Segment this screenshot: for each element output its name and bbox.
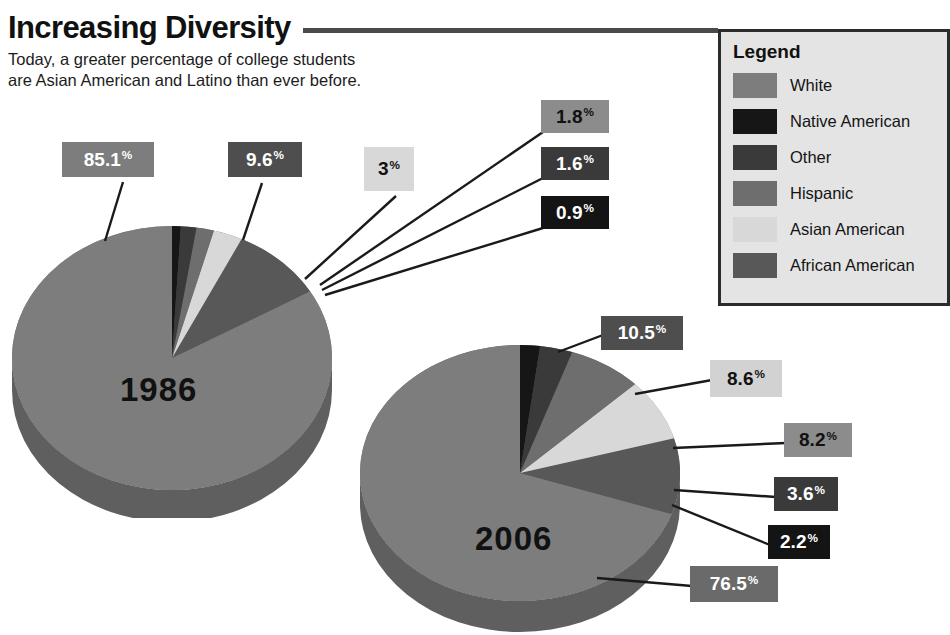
pie-1986-year-label: 1986 (120, 371, 197, 409)
legend-swatch-icon (733, 217, 777, 242)
callout-percent-sign: % (583, 106, 593, 118)
legend-item-label: Hispanic (790, 184, 853, 203)
callout-value: 1.6 (556, 154, 582, 173)
page-title: Increasing Diversity (8, 12, 291, 45)
legend-swatch-icon (733, 253, 777, 278)
header: Increasing Diversity Today, a greater pe… (8, 12, 718, 91)
legend-item: African American (733, 247, 937, 283)
callout-callouts_1986-1-6: 1.6% (541, 147, 609, 180)
legend-panel: Legend WhiteNative AmericanOtherHispanic… (718, 29, 950, 306)
callout-percent-sign: % (826, 430, 836, 442)
legend-rows: WhiteNative AmericanOtherHispanicAsian A… (733, 67, 937, 283)
legend-item: Hispanic (733, 175, 937, 211)
pie-2006-year-label: 2006 (475, 520, 552, 558)
callout-callouts_2006-8-2: 8.2% (784, 423, 852, 457)
callout-percent-sign: % (807, 532, 817, 544)
callout-percent-sign: % (583, 153, 593, 165)
leader-2006-native-american (672, 505, 770, 545)
legend-swatch-icon (733, 73, 777, 98)
callout-value: 0.9 (556, 203, 582, 222)
legend-swatch-icon (733, 181, 777, 206)
legend-item-label: Asian American (790, 220, 905, 239)
callout-callouts_1986-85-1: 85.1% (62, 142, 154, 177)
pie-1986-slices (12, 226, 332, 490)
leader-2006-other (674, 490, 776, 497)
callout-percent-sign: % (656, 323, 666, 335)
legend-item: White (733, 67, 937, 103)
callout-callouts_1986-9-6: 9.6% (228, 142, 302, 177)
legend-item: Other (733, 139, 937, 175)
callout-value: 1.8 (556, 107, 582, 126)
legend-swatch-icon (733, 109, 777, 134)
leader-1986-native-american (325, 228, 543, 295)
callout-callouts_2006-76-5: 76.5% (690, 566, 778, 602)
title-divider-rule (303, 28, 718, 33)
callout-percent-sign: % (748, 574, 758, 586)
callout-value: 8.2 (799, 430, 825, 449)
legend-title: Legend (733, 41, 937, 63)
pie-2006-slices (360, 345, 680, 601)
leader-2006-hispanic (673, 443, 786, 448)
legend-item: Asian American (733, 211, 937, 247)
legend-item-label: White (790, 76, 832, 95)
page-subtitle: Today, a greater percentage of college s… (8, 49, 458, 91)
callout-percent-sign: % (754, 368, 764, 380)
callout-callouts_2006-8-6: 8.6% (710, 360, 782, 397)
callout-value: 3.6 (787, 484, 813, 503)
pie-chart-1986: 1986 (2, 218, 347, 522)
callout-callouts_2006-10-5: 10.5% (601, 316, 683, 350)
callout-callouts_1986-1-8: 1.8% (541, 100, 609, 133)
legend-item-label: African American (790, 256, 915, 275)
callout-percent-sign: % (390, 159, 400, 171)
callout-callouts_2006-2-2: 2.2% (768, 525, 830, 559)
callout-value: 10.5 (618, 323, 655, 342)
title-row: Increasing Diversity (8, 12, 718, 45)
callout-percent-sign: % (122, 149, 132, 161)
leader-1986-hispanic (320, 132, 543, 285)
pie-2006-svg (350, 332, 680, 632)
callout-value: 76.5 (710, 574, 747, 593)
leader-1986-other (322, 178, 543, 290)
callout-percent-sign: % (814, 484, 824, 496)
callout-callouts_1986-0-9: 0.9% (541, 196, 609, 229)
callout-value: 9.6 (246, 150, 272, 169)
legend-item: Native American (733, 103, 937, 139)
legend-swatch-icon (733, 145, 777, 170)
callout-value: 2.2 (780, 532, 806, 551)
callout-percent-sign: % (273, 149, 283, 161)
callout-percent-sign: % (583, 202, 593, 214)
callout-callouts_2006-3-6: 3.6% (774, 477, 838, 511)
callout-value: 8.6 (727, 369, 753, 388)
legend-item-label: Other (790, 148, 831, 167)
callout-value: 85.1 (84, 150, 121, 169)
legend-item-label: Native American (790, 112, 910, 131)
callout-value: 3 (378, 159, 389, 178)
callout-callouts_1986-3: 3% (364, 147, 414, 191)
pie-1986-svg (2, 218, 347, 518)
pie-chart-2006: 2006 (350, 332, 680, 635)
